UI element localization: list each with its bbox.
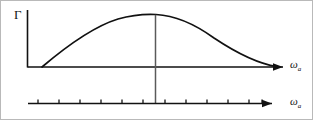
omega-subscript-lower: a xyxy=(298,102,302,110)
gamma-omega-plot: Γ ωa ωa xyxy=(0,0,313,120)
gamma-curve xyxy=(42,14,277,67)
x-axis-label-upper: ωa xyxy=(290,58,302,73)
lower-axis-arrowhead xyxy=(262,100,272,108)
omega-subscript-upper: a xyxy=(298,65,302,73)
y-axis-label: Γ xyxy=(14,7,22,22)
figure-container: Γ ωa ωa xyxy=(0,0,313,120)
x-axis-label-lower: ωa xyxy=(290,95,302,110)
